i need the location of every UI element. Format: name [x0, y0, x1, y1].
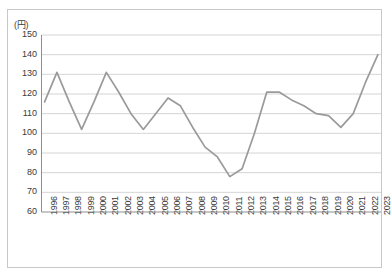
data-series-line — [45, 55, 378, 177]
line-chart-plot — [0, 0, 391, 278]
chart-figure: (円) 15014013012011010090807060 199619971… — [0, 0, 391, 278]
chart-gridlines — [42, 35, 382, 212]
